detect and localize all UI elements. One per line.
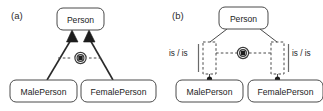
generalization-arrowhead-male: [67, 30, 79, 42]
generalization-arrowhead-female: [84, 30, 96, 42]
panel-b: (b) is / is is /: [169, 7, 323, 102]
association-stub-left-b: [199, 42, 217, 82]
panel-a-label: (a): [11, 10, 23, 21]
class-box-maleperson-a-label: MalePerson: [21, 87, 67, 97]
association-stub-right-shape: [271, 42, 284, 74]
class-box-femaleperson-b[interactable]: FemalePerson: [248, 80, 323, 102]
xor-constraint-core-b: [241, 51, 245, 55]
association-stub-right-b: [271, 42, 289, 82]
association-edge-left-b: [210, 29, 227, 42]
xor-constraint-link-a: [58, 52, 103, 63]
class-box-femaleperson-a[interactable]: FemalePerson: [81, 80, 156, 102]
generalization-edge-female: [89, 38, 113, 80]
class-box-person-a[interactable]: Person: [57, 8, 104, 30]
class-box-maleperson-a[interactable]: MalePerson: [10, 80, 77, 102]
class-box-maleperson-b-label: MalePerson: [187, 87, 233, 97]
class-box-femaleperson-b-label: FemalePerson: [258, 87, 314, 97]
class-box-person-b-label: Person: [230, 14, 257, 24]
relation-label-left: is / is: [169, 49, 188, 58]
panel-a: (a) Person MalePerson F: [10, 8, 156, 102]
class-box-person-b[interactable]: Person: [219, 7, 268, 29]
class-box-maleperson-b[interactable]: MalePerson: [176, 80, 243, 102]
class-box-person-a-label: Person: [67, 15, 94, 25]
association-stub-left-shape: [203, 42, 216, 74]
generalization-edge-male: [47, 38, 72, 80]
class-box-femaleperson-a-label: FemalePerson: [91, 87, 147, 97]
association-edges-b: [210, 29, 277, 42]
relation-label-right: is / is: [292, 49, 311, 58]
association-edge-right-b: [260, 29, 277, 42]
two-panel-uml-figure: (a) Person MalePerson F: [0, 0, 323, 111]
panel-b-label: (b): [172, 10, 184, 21]
xor-constraint-core: [78, 56, 82, 60]
xor-constraint-link-b: [216, 47, 271, 58]
